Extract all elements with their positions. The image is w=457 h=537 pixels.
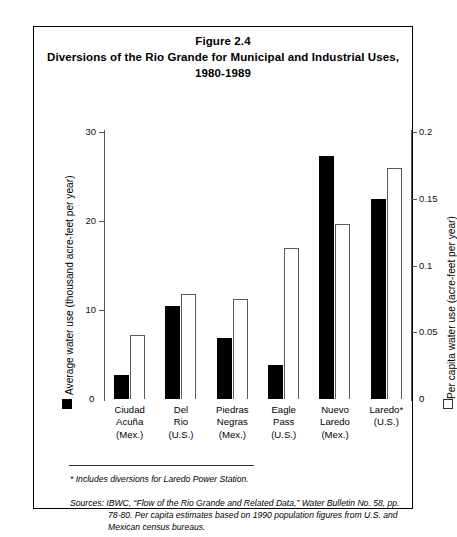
right-axis-zero-label: 0 [419,393,424,404]
right-axis-tick [412,332,417,333]
left-axis-zero-label: 0 [89,393,94,404]
footnote-text: * Includes diversions for Laredo Power S… [70,474,410,485]
legend-swatch-average-water-use [62,399,72,409]
left-axis-tick-label: 30 [70,127,96,137]
bar-group [104,132,155,399]
bar-per-capita-water-use[interactable] [130,335,145,399]
sources-label: Sources: [70,498,104,508]
bar-average-water-use[interactable] [371,199,386,399]
figure-frame: Figure 2.4 Diversions of the Rio Grande … [33,26,413,509]
left-axis-tick [99,132,104,133]
bar-average-water-use[interactable] [165,306,180,399]
bar-group [309,132,360,399]
x-axis-labels: CiudadAcuña(Mex.)DelRio(U.S.)PiedrasNegr… [104,404,412,452]
left-axis-tick [99,221,104,222]
left-axis-tick [99,310,104,311]
right-axis-title: Per capita water use (acre-feet per year… [446,216,457,399]
bar-per-capita-water-use[interactable] [335,224,350,399]
right-axis-tick [412,266,417,267]
sources-line-1: IBWC, “Flow of the Rio Grande and Relate… [106,498,399,508]
right-axis-tick [412,132,417,133]
bar-group [207,132,258,399]
right-axis-tick-label: 0.2 [419,127,432,137]
bar-per-capita-water-use[interactable] [387,168,402,399]
right-axis-tick-label: 0.15 [419,194,438,204]
footnote-divider [69,465,254,466]
figure-number: Figure 2.4 [34,33,412,49]
bar-average-water-use[interactable] [217,338,232,399]
figure-title-block: Figure 2.4 Diversions of the Rio Grande … [34,33,412,81]
sources-line-2: 78-80. Per capita estimates based on 199… [70,509,422,521]
bar-per-capita-water-use[interactable] [284,248,299,399]
sources-block: Sources: IBWC, “Flow of the Rio Grande a… [70,497,422,533]
bar-average-water-use[interactable] [319,156,334,399]
right-axis-tick-label: 0.05 [419,327,438,337]
x-axis-category-label: Laredo*(U.S.) [353,404,420,429]
right-axis-tick [412,199,417,200]
bar-group [155,132,206,399]
bar-average-water-use[interactable] [114,375,129,399]
figure-title-line-1: Diversions of the Rio Grande for Municip… [34,49,412,65]
bar-per-capita-water-use[interactable] [233,299,248,399]
left-axis-title: Average water use (thousand acre-feet pe… [64,175,75,395]
bar-average-water-use[interactable] [268,365,283,399]
bar-group [258,132,309,399]
bar-per-capita-water-use[interactable] [181,294,196,399]
right-axis-tick-label: 0.1 [419,261,432,271]
sources-line-3: Mexican census bureaus. [70,521,422,533]
plot-area [104,132,412,399]
legend-swatch-per-capita-water-use [443,399,453,409]
bar-group [361,132,412,399]
figure-title-line-2: 1980-1989 [34,65,412,81]
